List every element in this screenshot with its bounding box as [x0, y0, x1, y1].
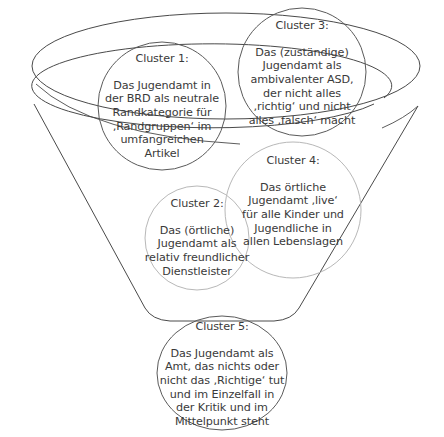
cluster-3-text: Das (zuständige) Jugendamt als ambivalen… — [249, 46, 355, 128]
cluster-1-text: Das Jugendamt in der BRD als neutrale Ra… — [105, 79, 219, 161]
cluster-1-title: Cluster 1: — [105, 52, 219, 66]
cluster-4-text: Das örtliche Jugendamt ‚live‘ für alle K… — [242, 181, 344, 249]
cluster-2-text: Das (örtliche) Jugendamt als relativ fre… — [145, 223, 249, 277]
cluster-1-label: Cluster 1: Das Jugendamt in der BRD als … — [105, 38, 219, 174]
cluster-5-label: Cluster 5: Das Jugendamt als Amt, das ni… — [160, 306, 284, 437]
cluster-3-label: Cluster 3: Das (zuständige) Jugendamt al… — [249, 5, 355, 141]
cluster-2-title: Cluster 2: — [145, 196, 249, 210]
cluster-3-title: Cluster 3: — [249, 19, 355, 33]
cluster-4-label: Cluster 4: Das örtliche Jugendamt ‚live‘… — [242, 140, 344, 262]
cluster-5-title: Cluster 5: — [160, 320, 284, 334]
cluster-4-title: Cluster 4: — [242, 153, 344, 167]
funnel-rim-right-stroke — [382, 106, 418, 128]
cluster-2-label: Cluster 2: Das (örtliche) Jugendamt als … — [145, 183, 249, 292]
cluster-5-text: Das Jugendamt als Amt, das nichts oder n… — [160, 347, 284, 429]
funnel-diagram: Cluster 1: Das Jugendamt in der BRD als … — [0, 0, 444, 437]
